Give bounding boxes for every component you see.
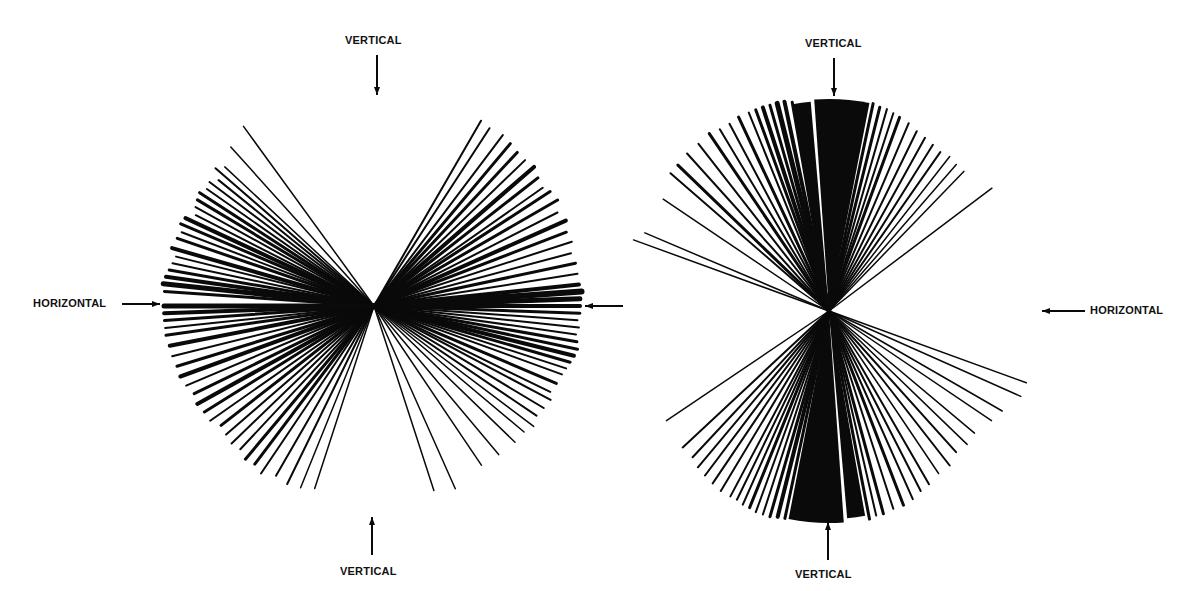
right-right-arrow-icon xyxy=(1042,308,1085,314)
right-horizontal-label: HORIZONTAL xyxy=(1090,304,1163,317)
right-orientation-diagram: VERTICAL VERTICAL HORIZONTAL xyxy=(0,0,1197,591)
right-top-arrow-icon xyxy=(831,58,837,96)
right-bottom-vertical-label: VERTICAL xyxy=(795,568,852,581)
right-top-vertical-label: VERTICAL xyxy=(805,37,862,50)
right-rays-svg xyxy=(0,0,1197,591)
right-bottom-arrow-icon xyxy=(825,522,831,560)
right-orientation-ray xyxy=(829,311,1026,383)
